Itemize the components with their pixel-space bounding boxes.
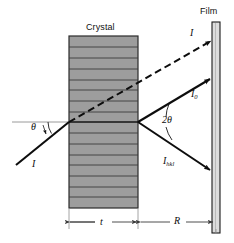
crystal-label: Crystal xyxy=(86,22,115,32)
direct-beam-label: I0 xyxy=(191,88,198,99)
two-theta-label: 2θ xyxy=(162,114,172,125)
transmitted-beam-label: I xyxy=(190,27,193,38)
theta-angle-arc xyxy=(43,122,52,134)
distance-dimension-label: R xyxy=(174,215,180,226)
diffracted-beam-label: Ihkl xyxy=(163,155,174,166)
dimension-extension-lines xyxy=(69,209,216,234)
thickness-dimension-label: t xyxy=(100,216,103,227)
diffracted-beam-subscript: hkl xyxy=(166,160,174,167)
film-label: Film xyxy=(200,6,217,16)
direct-beam-ray xyxy=(138,79,210,122)
incident-beam-label: I xyxy=(32,158,35,169)
direct-beam-subscript: 0 xyxy=(194,93,197,100)
film-strip xyxy=(212,22,220,233)
figure-canvas: Crystal Film I I I0 Ihkl θ 2θ t R xyxy=(0,0,234,243)
theta-label: θ xyxy=(31,121,36,132)
incident-beam-ray xyxy=(16,122,69,165)
